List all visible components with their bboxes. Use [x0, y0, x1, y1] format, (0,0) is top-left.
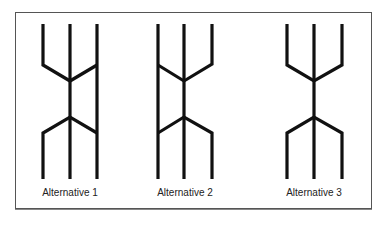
alternative-3-graphic — [287, 24, 342, 179]
alternative-2-graphic — [158, 24, 212, 179]
alternative-3-label: Alternative 3 — [269, 187, 359, 198]
alternative-1-label: Alternative 1 — [25, 187, 115, 198]
alternative-2-label: Alternative 2 — [140, 187, 230, 198]
alternative-1-graphic — [43, 24, 97, 179]
